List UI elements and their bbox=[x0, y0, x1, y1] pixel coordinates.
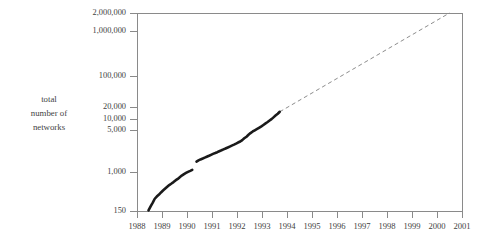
y-tick-label: 100,000 bbox=[99, 71, 126, 80]
y-tick-label: 2,000,000 bbox=[93, 8, 127, 17]
y-tick-label: 10,000 bbox=[103, 114, 126, 123]
x-tick-label: 1997 bbox=[353, 221, 371, 231]
x-tick-1998: 1998 bbox=[378, 211, 395, 231]
x-tick-1990: 1990 bbox=[178, 211, 195, 231]
x-tick-2001: 2001 bbox=[453, 211, 470, 231]
y-axis: 2,000,000 1,000,000 100,000 20,000 10,00… bbox=[93, 8, 138, 215]
x-tick-1996: 1996 bbox=[328, 211, 346, 231]
x-tick-label: 1994 bbox=[278, 221, 296, 231]
y-axis-title-line: networks bbox=[33, 122, 66, 132]
x-tick-label: 1992 bbox=[228, 221, 245, 231]
x-tick-label: 1991 bbox=[203, 221, 220, 231]
x-tick-label: 1993 bbox=[253, 221, 270, 231]
y-tick-label: 150 bbox=[113, 206, 126, 215]
y-tick-100000: 100,000 bbox=[99, 71, 137, 80]
x-tick-label: 1996 bbox=[328, 221, 346, 231]
y-tick-label: 5,000 bbox=[107, 125, 126, 134]
y-tick-1000000: 1,000,000 bbox=[93, 26, 138, 35]
x-tick-2000: 2000 bbox=[428, 211, 445, 231]
y-tick-1000: 1,000 bbox=[107, 167, 137, 176]
x-tick-1992: 1992 bbox=[228, 211, 245, 231]
chart-figure: 2,000,000 1,000,000 100,000 20,000 10,00… bbox=[0, 0, 483, 245]
x-tick-1994: 1994 bbox=[278, 211, 296, 231]
x-tick-1989: 1989 bbox=[153, 211, 170, 231]
y-tick-label: 1,000,000 bbox=[93, 26, 127, 35]
y-axis-title-line: number of bbox=[31, 108, 67, 118]
y-tick-label: 1,000 bbox=[107, 167, 126, 176]
plot-frame bbox=[137, 13, 462, 211]
x-tick-1999: 1999 bbox=[403, 211, 420, 231]
observed-networks-line bbox=[149, 112, 280, 211]
x-tick-1997: 1997 bbox=[353, 211, 371, 231]
x-tick-1993: 1993 bbox=[253, 211, 270, 231]
y-tick-5000: 5,000 bbox=[107, 125, 137, 134]
x-tick-label: 1995 bbox=[303, 221, 320, 231]
x-axis: 1988 1989 1990 1991 1992 1993 bbox=[128, 211, 470, 231]
y-tick-10000: 10,000 bbox=[103, 114, 137, 123]
y-tick-label: 20,000 bbox=[103, 102, 126, 111]
x-tick-1988: 1988 bbox=[128, 211, 145, 231]
x-tick-label: 1998 bbox=[378, 221, 395, 231]
y-tick-2000000: 2,000,000 bbox=[93, 8, 138, 17]
x-tick-label: 1989 bbox=[153, 221, 170, 231]
y-tick-20000: 20,000 bbox=[103, 102, 137, 111]
x-tick-label: 1990 bbox=[178, 221, 195, 231]
x-tick-label: 2000 bbox=[428, 221, 445, 231]
y-axis-title-line: total bbox=[41, 94, 57, 104]
projected-growth-line bbox=[280, 13, 450, 112]
x-tick-label: 1999 bbox=[403, 221, 420, 231]
y-axis-title: total number of networks bbox=[31, 94, 67, 132]
y-tick-150: 150 bbox=[113, 206, 137, 215]
x-tick-label: 2001 bbox=[453, 221, 470, 231]
network-growth-chart: 2,000,000 1,000,000 100,000 20,000 10,00… bbox=[0, 0, 483, 245]
x-tick-1995: 1995 bbox=[303, 211, 320, 231]
series-group bbox=[149, 13, 450, 210]
x-tick-1991: 1991 bbox=[203, 211, 220, 231]
x-tick-label: 1988 bbox=[128, 221, 145, 231]
